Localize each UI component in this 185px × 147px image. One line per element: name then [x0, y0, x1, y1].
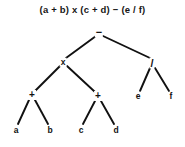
tree-edge	[101, 101, 114, 124]
tree-node-operand-n8: b	[46, 126, 53, 135]
tree-node-operator-n0: −	[95, 27, 103, 38]
tree-edge	[155, 68, 169, 91]
tree-edge	[35, 100, 48, 124]
tree-edge	[103, 36, 150, 58]
tree-node-operand-n5: e	[135, 92, 142, 101]
tree-node-operand-n9: c	[78, 126, 85, 135]
tree-edge-layer	[0, 0, 185, 147]
tree-edge	[18, 100, 29, 124]
tree-edge	[83, 101, 95, 124]
tree-node-operand-n10: d	[112, 126, 119, 135]
tree-edge	[35, 66, 60, 91]
tree-edge	[66, 36, 96, 58]
tree-node-operator-n4: +	[94, 91, 102, 101]
tree-edge	[140, 68, 150, 91]
expression-tree-diagram: (a + b) x (c + d) − (e / f) −x/++efabcd	[0, 0, 185, 147]
tree-node-operator-n1: x	[60, 58, 67, 67]
tree-node-operand-n6: f	[169, 92, 174, 101]
tree-node-operator-n2: /	[149, 58, 154, 69]
tree-edge	[67, 66, 95, 92]
tree-node-operand-n7: a	[13, 126, 20, 135]
tree-node-operator-n3: +	[28, 90, 36, 100]
